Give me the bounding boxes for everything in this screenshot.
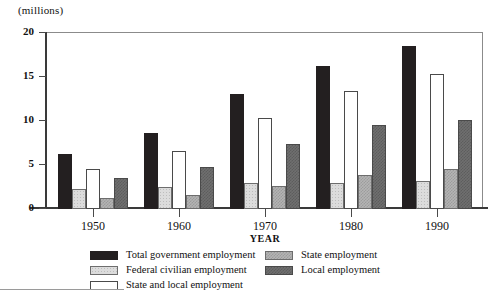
footer-rule [0,289,124,290]
x-axis-tick-label: 1960 [149,219,209,234]
bars-layer [0,0,493,208]
legend-item: Federal civilian employment [90,264,255,277]
legend-item: State and local employment [90,279,255,292]
legend-swatch [265,251,293,260]
x-axis-tick [93,209,94,217]
bar [158,187,172,209]
legend-swatch [265,266,293,275]
bar [358,175,372,209]
bar [344,91,358,209]
bar-group [144,32,221,209]
legend-label: Total government employment [126,250,255,261]
x-axis-tick [351,209,352,217]
bar [372,125,386,209]
x-axis-tick-label: 1970 [235,219,295,234]
legend-label: State employment [301,250,377,261]
legend-item: Total government employment [90,249,255,262]
bar [58,154,72,209]
bar [402,46,416,209]
x-axis-tick-label: 1950 [63,219,123,234]
bar [286,144,300,209]
bar-chart: (millions) 05101520 195019601970YEAR1980… [0,0,493,298]
legend-swatch [90,266,118,275]
bar [458,120,472,209]
bar [316,66,330,209]
legend-label: Local employment [301,265,380,276]
x-axis-tick-label: 1990 [407,219,467,234]
bar [172,151,186,209]
legend-column-left: Total government employmentFederal civil… [90,249,255,294]
chart-legend: Total government employmentFederal civil… [90,249,460,289]
bar [258,118,272,209]
bar [186,195,200,209]
bar [144,133,158,209]
bar [272,186,286,209]
legend-swatch [90,251,118,260]
legend-label: Federal civilian employment [126,265,247,276]
x-axis-title: YEAR [235,233,295,244]
bar [416,181,430,209]
bar [230,94,244,209]
bar [430,74,444,209]
legend-item: State employment [265,249,380,262]
legend-item: Local employment [265,264,380,277]
bar [200,167,214,209]
x-axis-tick [265,209,266,217]
bar-group [58,32,135,209]
bar [244,183,258,209]
bar-group [316,32,393,209]
bar [330,183,344,209]
x-axis-tick-label: 1980 [321,219,381,234]
legend-column-right: State employmentLocal employment [265,249,380,279]
x-axis-tick [437,209,438,217]
bar [444,169,458,209]
bar-group [402,32,479,209]
legend-label: State and local employment [126,280,243,291]
x-axis-tick [179,209,180,217]
bar [86,169,100,209]
bar [114,178,128,209]
bar-group [230,32,307,209]
y-axis-tick [39,208,46,209]
bar [100,198,114,209]
bar [72,189,86,209]
